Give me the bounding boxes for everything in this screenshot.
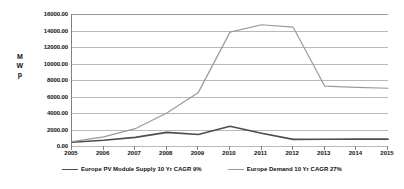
legend-item-2[interactable]: Europe Demand 10 Yr CAGR 27% [228, 166, 342, 172]
x-axis: 2005200620072008200920102011201220132014… [0, 0, 404, 189]
legend-label: Europe Demand 10 Yr CAGR 27% [247, 166, 342, 172]
x-axis-tick-label: 2015 [367, 150, 404, 156]
legend-swatch-icon [228, 169, 244, 170]
legend-label: Europe PV Module Supply 10 Yr CAGR 9% [81, 166, 202, 172]
line-chart: M W p 0.002000.004000.006000.008000.0010… [0, 0, 404, 189]
chart-legend: Europe PV Module Supply 10 Yr CAGR 9%Eur… [0, 166, 404, 172]
legend-item-1[interactable]: Europe PV Module Supply 10 Yr CAGR 9% [62, 166, 202, 172]
legend-swatch-icon [62, 169, 78, 170]
